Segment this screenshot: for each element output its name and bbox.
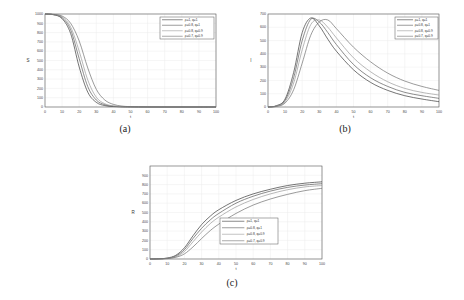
y-tick-label: 500 bbox=[260, 39, 266, 43]
x-tick-label: 0 bbox=[44, 110, 46, 114]
y-axis-label: R bbox=[131, 210, 135, 215]
y-tick-label: 800 bbox=[142, 183, 148, 187]
y-tick-label: 100 bbox=[142, 248, 148, 252]
y-tick-label: 700 bbox=[260, 12, 266, 16]
legend-label: ρ=0.8, q=0.9 bbox=[185, 29, 203, 33]
x-tick-label: 30 bbox=[94, 110, 98, 114]
x-tick-label: 100 bbox=[213, 110, 219, 114]
y-tick-label: 500 bbox=[37, 59, 43, 63]
x-tick-label: 70 bbox=[386, 110, 390, 114]
legend-label: ρ=1, q=1 bbox=[185, 18, 198, 22]
y-tick-label: 300 bbox=[142, 229, 148, 233]
y-tick-label: 400 bbox=[142, 220, 148, 224]
legend-label: ρ=0.7, q=0.9 bbox=[247, 239, 265, 243]
x-tick-label: 0 bbox=[267, 110, 269, 114]
x-tick-label: 10 bbox=[165, 262, 169, 266]
caption-a: (a) bbox=[119, 123, 130, 134]
x-tick-label: 20 bbox=[300, 110, 304, 114]
x-tick-label: 40 bbox=[217, 262, 221, 266]
y-tick-label: 700 bbox=[142, 192, 148, 196]
x-tick-label: 10 bbox=[283, 110, 287, 114]
legend-label: ρ=0.8, q=0.9 bbox=[415, 29, 433, 33]
y-tick-label: 300 bbox=[37, 77, 43, 81]
legend-label: ρ=0.8, q=1 bbox=[185, 23, 201, 27]
chart-a-plot: 0102030405060708090100010020030040050060… bbox=[0, 0, 232, 125]
x-axis-label: t bbox=[353, 114, 355, 119]
x-tick-label: 60 bbox=[369, 110, 373, 114]
y-tick-label: 600 bbox=[260, 25, 266, 29]
x-tick-label: 60 bbox=[251, 262, 255, 266]
x-tick-label: 30 bbox=[200, 262, 204, 266]
y-axis-label: I bbox=[250, 58, 251, 63]
caption-c: (c) bbox=[226, 277, 237, 288]
y-tick-label: 900 bbox=[37, 22, 43, 26]
x-tick-label: 70 bbox=[163, 110, 167, 114]
x-tick-label: 90 bbox=[197, 110, 201, 114]
y-tick-label: 600 bbox=[37, 49, 43, 53]
y-tick-label: 0 bbox=[146, 257, 148, 261]
y-tick-label: 600 bbox=[142, 201, 148, 205]
y-tick-label: 500 bbox=[142, 211, 148, 215]
x-tick-label: 100 bbox=[436, 110, 442, 114]
y-tick-label: 100 bbox=[37, 96, 43, 100]
chart-c-plot: 0102030405060708090100010020030040050060… bbox=[110, 152, 350, 277]
chart-b-plot: 0102030405060708090100010020030040050060… bbox=[232, 0, 464, 125]
x-tick-label: 40 bbox=[111, 110, 115, 114]
y-tick-label: 300 bbox=[260, 65, 266, 69]
legend-label: ρ=0.8, q=1 bbox=[415, 23, 431, 27]
x-tick-label: 0 bbox=[149, 262, 151, 266]
y-tick-label: 100 bbox=[260, 92, 266, 96]
y-tick-label: 200 bbox=[260, 79, 266, 83]
y-tick-label: 0 bbox=[264, 105, 266, 109]
legend-label: ρ=0.8, q=0.9 bbox=[247, 232, 265, 236]
y-tick-label: 200 bbox=[37, 87, 43, 91]
y-tick-label: 800 bbox=[37, 31, 43, 35]
x-tick-label: 90 bbox=[303, 262, 307, 266]
x-tick-label: 40 bbox=[334, 110, 338, 114]
legend-label: ρ=0.7, q=0.9 bbox=[415, 34, 433, 38]
x-axis-label: t bbox=[235, 266, 237, 271]
x-tick-label: 10 bbox=[60, 110, 64, 114]
x-axis-label: t bbox=[130, 114, 132, 119]
x-tick-label: 90 bbox=[420, 110, 424, 114]
caption-b: (b) bbox=[339, 123, 351, 134]
y-tick-label: 400 bbox=[37, 68, 43, 72]
legend-label: ρ=1, q=1 bbox=[247, 219, 260, 223]
y-tick-label: 400 bbox=[260, 52, 266, 56]
x-tick-label: 20 bbox=[77, 110, 81, 114]
x-tick-label: 80 bbox=[286, 262, 290, 266]
x-tick-label: 20 bbox=[182, 262, 186, 266]
x-tick-label: 30 bbox=[317, 110, 321, 114]
chart-a: 0102030405060708090100010020030040050060… bbox=[0, 0, 232, 125]
y-tick-label: 0 bbox=[41, 105, 43, 109]
x-tick-label: 100 bbox=[319, 262, 325, 266]
legend-label: ρ=1, q=1 bbox=[415, 18, 428, 22]
legend-label: ρ=0.8, q=1 bbox=[247, 226, 263, 230]
y-tick-label: 1000 bbox=[35, 12, 43, 16]
y-axis-label: S bbox=[26, 58, 29, 63]
legend-label: ρ=0.7, q=0.9 bbox=[185, 34, 203, 38]
y-tick-label: 700 bbox=[37, 40, 43, 44]
chart-b: 0102030405060708090100010020030040050060… bbox=[232, 0, 464, 125]
x-tick-label: 80 bbox=[403, 110, 407, 114]
x-tick-label: 80 bbox=[180, 110, 184, 114]
chart-c: 0102030405060708090100010020030040050060… bbox=[110, 152, 350, 277]
y-tick-label: 200 bbox=[142, 239, 148, 243]
x-tick-label: 70 bbox=[268, 262, 272, 266]
x-tick-label: 60 bbox=[146, 110, 150, 114]
y-tick-label: 900 bbox=[142, 174, 148, 178]
